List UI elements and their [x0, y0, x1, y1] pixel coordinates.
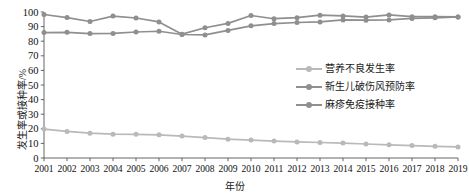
data-point — [180, 134, 185, 139]
x-tick-label: 2009 — [218, 163, 237, 174]
y-tick-label: 10 — [28, 138, 39, 149]
x-tick-label: 2014 — [333, 163, 352, 174]
legend-marker-icon — [296, 100, 322, 110]
x-tick-label: 2011 — [265, 163, 284, 174]
data-point — [341, 141, 346, 146]
data-point — [456, 14, 461, 19]
y-tick-label: 80 — [28, 36, 39, 47]
legend-item-2: 新生儿破伤风预防率 — [296, 79, 466, 94]
data-point — [272, 16, 277, 21]
data-point — [203, 135, 208, 140]
data-point — [65, 15, 70, 20]
x-tick-label: 2005 — [126, 163, 145, 174]
data-point — [226, 137, 231, 142]
x-tick-label: 2006 — [149, 163, 168, 174]
data-point — [272, 139, 277, 144]
data-point — [111, 31, 116, 36]
legend-label: 营养不良发生率 — [325, 63, 395, 74]
data-point — [318, 19, 323, 24]
data-point — [387, 17, 392, 22]
y-tick-label: 30 — [28, 109, 39, 120]
data-point — [456, 144, 461, 149]
data-point — [341, 13, 346, 18]
data-point — [88, 131, 93, 136]
data-point — [249, 13, 254, 18]
data-point — [134, 15, 139, 20]
x-tick-label: 2015 — [356, 163, 375, 174]
x-tick-label: 2008 — [195, 163, 214, 174]
data-point — [410, 143, 415, 148]
data-point — [226, 28, 231, 33]
x-tick-label: 2013 — [310, 163, 329, 174]
data-point — [410, 14, 415, 19]
data-point — [88, 19, 93, 24]
chart-figure: 0102030405060708090100200120022003200420… — [0, 0, 469, 193]
data-point — [134, 30, 139, 35]
data-point — [42, 30, 47, 35]
data-point — [203, 25, 208, 30]
data-point — [42, 12, 47, 17]
data-point — [65, 30, 70, 35]
legend-marker-icon — [296, 64, 322, 74]
y-tick-label: 20 — [28, 123, 39, 134]
x-tick-label: 2012 — [287, 163, 306, 174]
data-point — [203, 32, 208, 37]
y-tick-label: 90 — [28, 21, 39, 32]
x-tick-label: 2019 — [448, 163, 467, 174]
data-point — [157, 29, 162, 34]
chart-legend: 营养不良发生率新生儿破伤风预防率麻疹免疫接种率 — [296, 61, 466, 115]
x-axis-title: 年份 — [0, 178, 469, 193]
y-axis-title: 发生率或接种率/% — [14, 0, 28, 150]
y-tick-label: 50 — [28, 80, 39, 91]
data-point — [226, 21, 231, 26]
data-point — [433, 14, 438, 19]
data-point — [134, 132, 139, 137]
x-tick-label: 2018 — [425, 163, 444, 174]
x-tick-label: 2001 — [34, 163, 53, 174]
data-point — [157, 132, 162, 137]
legend-label: 麻疹免疫接种率 — [325, 99, 395, 110]
legend-item-3: 麻疹免疫接种率 — [296, 97, 466, 112]
data-point — [364, 141, 369, 146]
data-point — [111, 14, 116, 19]
data-point — [433, 144, 438, 149]
legend-label: 新生儿破伤风预防率 — [325, 81, 415, 92]
legend-item-1: 营养不良发生率 — [296, 61, 466, 76]
x-tick-label: 2016 — [379, 163, 398, 174]
x-tick-label: 2017 — [402, 163, 421, 174]
data-point — [364, 15, 369, 20]
data-point — [111, 132, 116, 137]
data-point — [65, 129, 70, 134]
data-point — [42, 127, 47, 132]
x-tick-label: 2007 — [172, 163, 191, 174]
data-point — [318, 13, 323, 18]
data-point — [387, 142, 392, 147]
data-point — [249, 23, 254, 28]
data-point — [387, 12, 392, 17]
data-point — [295, 15, 300, 20]
data-point — [157, 19, 162, 24]
legend-marker-icon — [296, 82, 322, 92]
y-tick-label: 40 — [28, 94, 39, 105]
data-point — [180, 32, 185, 37]
data-point — [272, 21, 277, 26]
data-point — [318, 140, 323, 145]
x-tick-label: 2004 — [103, 163, 122, 174]
x-tick-label: 2010 — [241, 163, 260, 174]
data-point — [88, 31, 93, 36]
y-tick-label: 60 — [28, 65, 39, 76]
x-tick-label: 2002 — [57, 163, 76, 174]
data-point — [295, 139, 300, 144]
y-tick-label: 0 — [33, 153, 38, 164]
data-point — [249, 138, 254, 143]
y-tick-label: 70 — [28, 50, 39, 61]
series-1 — [42, 127, 461, 150]
data-point — [295, 20, 300, 25]
x-tick-label: 2003 — [80, 163, 99, 174]
